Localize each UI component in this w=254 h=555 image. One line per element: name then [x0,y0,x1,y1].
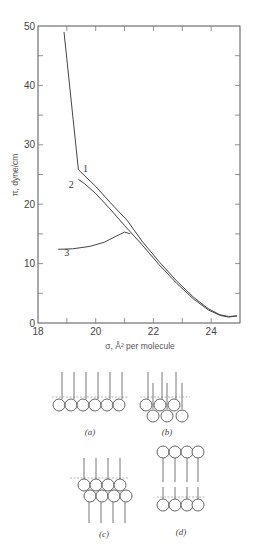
figure: 1820222401020304050 123 π, dyne/cm σ, Å²… [0,0,254,555]
x-axis-title: σ, Å² per molecule [105,341,175,351]
head-group-circle [102,479,114,491]
curve-labels: 123 [64,163,88,259]
diagram-a-label: (a) [85,427,96,437]
x-tick-label: 20 [90,326,102,337]
head-group-circle [168,399,180,411]
x-tick-label: 24 [206,326,218,337]
head-group-circle [89,399,101,411]
y-axis-title: π, dyne/cm [10,154,20,197]
x-tick-label: 22 [148,326,160,337]
head-group-circle [192,446,204,458]
head-group-circle [154,399,166,411]
head-group-circle [114,479,126,491]
curve-1 [64,32,237,317]
axis-tick-labels: 1820222401020304050 [24,21,217,338]
y-tick-label: 20 [24,199,36,210]
head-group-circle [169,446,181,458]
diagram-c-collapsed-bilayer [70,458,132,523]
diagram-b-label: (b) [162,427,173,437]
head-group-circle [78,479,90,491]
pressure-area-plot: 1820222401020304050 123 π, dyne/cm σ, Å²… [10,21,240,352]
molecular-arrangement-diagrams: (a) (b) (c) (d) [52,372,206,539]
head-group-circle [113,399,125,411]
diagram-d-label: (d) [176,527,187,537]
y-tick-label: 50 [24,21,36,32]
head-group-circle [96,490,108,502]
head-group-circle [157,499,169,511]
head-group-circle [192,499,204,511]
head-group-circle [65,399,77,411]
y-tick-label: 30 [24,139,36,150]
head-group-circle [176,410,188,422]
curve-label-2: 2 [69,179,74,190]
head-group-circle [77,399,89,411]
diagram-a-monolayer [52,372,128,411]
head-group-circle [181,446,193,458]
head-group-circle [161,410,173,422]
y-tick-label: 10 [24,258,36,269]
head-group-circle [140,399,152,411]
curve-label-1: 1 [83,163,88,174]
diagram-b-staggered [140,372,190,422]
y-tick-label: 0 [29,318,35,329]
diagram-d-inverted-bilayer [157,446,206,511]
diagram-c-label: (c) [99,529,109,539]
head-group-circle [53,399,65,411]
head-group-circle [181,499,193,511]
isotherm-curves [58,32,237,317]
head-group-circle [147,410,159,422]
curve-label-3: 3 [64,247,69,258]
curve-2 [78,179,237,317]
head-group-circle [120,490,132,502]
head-group-circle [157,446,169,458]
head-group-circle [90,479,102,491]
y-tick-label: 40 [24,80,36,91]
head-group-circle [84,490,96,502]
head-group-circle [169,499,181,511]
head-group-circle [108,490,120,502]
head-group-circle [101,399,113,411]
